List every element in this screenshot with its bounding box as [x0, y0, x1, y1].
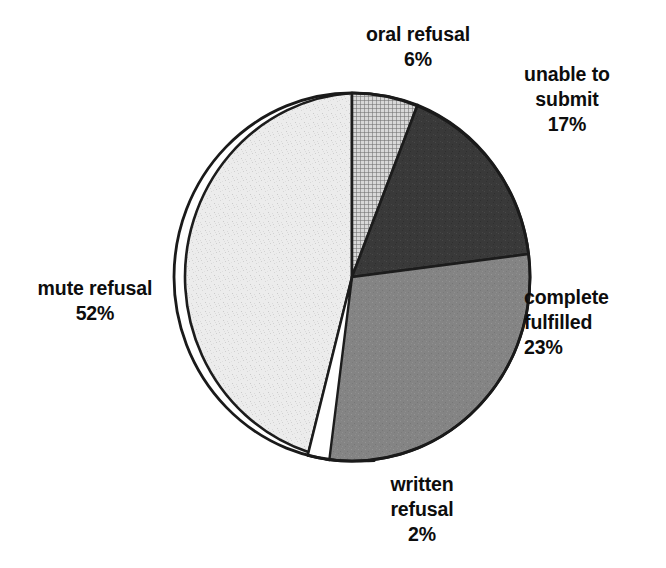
- pie-label-complete-fulfilled-name-line1: complete: [524, 285, 664, 310]
- pie-label-written-refusal-name-line2: refusal: [352, 497, 492, 522]
- pie-label-mute-refusal-value: 52%: [12, 301, 178, 326]
- pie-chart-figure: oral refusal 6% unable to submit 17% com…: [0, 0, 666, 568]
- pie-label-unable-to-submit-name-line2: submit: [492, 87, 642, 112]
- pie-label-written-refusal: written refusal 2%: [352, 472, 492, 547]
- pie-label-unable-to-submit-value: 17%: [492, 112, 642, 137]
- pie-label-complete-fulfilled-name-line2: fulfilled: [524, 310, 664, 335]
- pie-label-mute-refusal: mute refusal 52%: [12, 276, 178, 326]
- pie-label-unable-to-submit-name-line1: unable to: [492, 62, 642, 87]
- pie-label-oral-refusal-value: 6%: [333, 47, 503, 72]
- pie-label-mute-refusal-name: mute refusal: [12, 276, 178, 301]
- pie-label-complete-fulfilled: complete fulfilled 23%: [524, 285, 664, 360]
- pie-label-oral-refusal: oral refusal 6%: [333, 22, 503, 72]
- pie-label-written-refusal-value: 2%: [352, 522, 492, 547]
- pie-label-written-refusal-name-line1: written: [352, 472, 492, 497]
- pie-label-unable-to-submit: unable to submit 17%: [492, 62, 642, 137]
- pie-label-complete-fulfilled-value: 23%: [524, 335, 664, 360]
- pie-label-oral-refusal-name: oral refusal: [333, 22, 503, 47]
